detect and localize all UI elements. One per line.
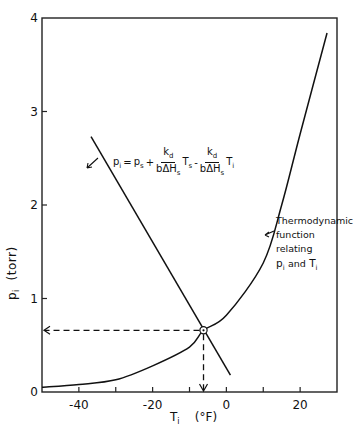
eq-ps-sub: s: [140, 162, 144, 170]
eq-den-sub: s: [177, 169, 181, 177]
plot-frame: [42, 18, 337, 392]
x-label-sub: i: [177, 417, 179, 426]
curve-label-line4: pi and Ti: [276, 256, 353, 275]
y-label-main: p: [5, 292, 19, 300]
curve-label-p-sub: i: [283, 264, 285, 272]
eq-lhs-sub: i: [119, 162, 121, 170]
curve-label-line2: function: [276, 228, 353, 242]
x-label-unit: (°F): [195, 410, 217, 424]
y-tick-label: 1: [30, 292, 38, 306]
eq-equals: =: [123, 157, 131, 168]
x-tick-label: -40: [69, 398, 89, 412]
curve-label-line3: relating: [276, 242, 353, 256]
eq-fraction-2: kd bΔHs: [200, 146, 224, 179]
curve-label-p: p: [276, 257, 283, 269]
eq-num-sub-2: d: [213, 152, 217, 160]
y-label-unit: (torr): [5, 246, 19, 280]
x-tick-label: 20: [292, 398, 307, 412]
y-tick-label: 0: [30, 385, 38, 399]
thermodynamic-curve: [42, 33, 327, 387]
eq-ts-sub: s: [189, 162, 193, 170]
y-tick-label: 3: [30, 105, 38, 119]
eq-num-sub: d: [169, 152, 173, 160]
x-axis-label: Ti (°F): [170, 410, 217, 426]
eq-den-2: bΔH: [200, 163, 221, 174]
y-axis-ticks: 01234: [30, 11, 47, 399]
curve-label-line1: Thermodynamic: [276, 214, 353, 228]
curve-label-t-sub: i: [316, 264, 318, 272]
x-axis-ticks: -40-20020: [69, 387, 308, 412]
curve-annotation: Thermodynamic function relating pi and T…: [276, 214, 353, 275]
y-tick-label: 2: [30, 198, 38, 212]
equation-annotation: pi = ps + kd bΔHs Ts - kd bΔHs Ti: [113, 146, 234, 179]
eq-den: bΔH: [156, 163, 177, 174]
y-label-sub: i: [12, 289, 21, 292]
eq-minus: -: [194, 157, 198, 168]
x-tick-label: -20: [143, 398, 163, 412]
eq-den-sub-2: s: [221, 169, 225, 177]
intersection-dot: [202, 329, 204, 331]
curve-label-and: and: [288, 258, 306, 269]
x-tick-label: 0: [223, 398, 231, 412]
y-tick-label: 4: [30, 11, 38, 25]
eq-plus: +: [146, 157, 154, 168]
y-axis-label: pi (torr): [5, 240, 21, 300]
eq-ti-sub: i: [232, 162, 234, 170]
equation-pointer-arrow-icon: [87, 158, 98, 168]
eq-fraction-1: kd bΔHs: [156, 146, 180, 179]
